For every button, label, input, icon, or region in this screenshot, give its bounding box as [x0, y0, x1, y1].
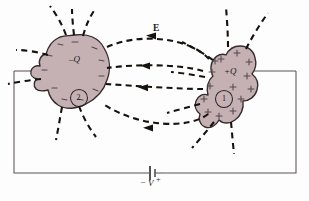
- right-charge-label: +Q: [224, 67, 237, 76]
- left-conductor-index: 2: [77, 94, 81, 102]
- right-conductor-index: 1: [222, 95, 226, 103]
- battery-negative-terminal: –: [141, 178, 145, 186]
- battery-positive-terminal: +: [156, 176, 161, 184]
- physics-figure: E –Q +Q 2 1 – V +: [0, 0, 309, 201]
- left-charge-label: –Q: [69, 55, 80, 64]
- field-lines-between: [103, 39, 209, 124]
- field-arrowheads: [138, 33, 156, 132]
- battery-voltage-label: V: [148, 179, 154, 188]
- field-label-E: E: [153, 24, 159, 34]
